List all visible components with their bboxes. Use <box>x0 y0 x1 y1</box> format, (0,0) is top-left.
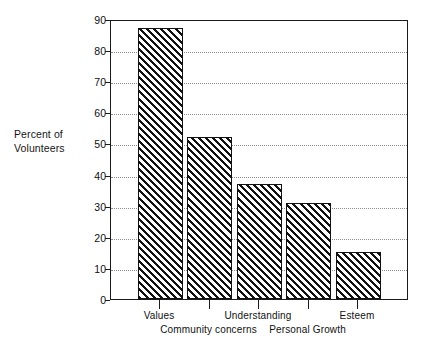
x-axis-tick-mark <box>159 300 160 309</box>
x-axis-tick-mark <box>258 300 259 309</box>
bar-chart-figure: Percent of Volunteers 010203040506070809… <box>0 0 428 357</box>
y-axis-tick-label: 0 <box>80 295 106 306</box>
y-axis-tick-label: 10 <box>80 264 106 275</box>
y-axis-tick-label: 70 <box>80 77 106 88</box>
bar <box>138 28 183 299</box>
x-axis-category-label: Understanding <box>225 310 292 321</box>
y-axis-tick-mark <box>105 144 110 145</box>
y-axis-tick-label: 40 <box>80 171 106 182</box>
y-axis-tick-mark <box>105 113 110 114</box>
plot-area <box>110 20 408 300</box>
x-axis-category-label: Personal Growth <box>269 324 346 335</box>
y-axis-tick-mark <box>105 300 110 301</box>
x-axis-category-label: Esteem <box>340 310 375 321</box>
x-axis-category-label: Values <box>144 310 175 321</box>
y-axis-tick-mark <box>105 20 110 21</box>
y-axis-tick-mark <box>105 176 110 177</box>
y-axis-tick-mark <box>105 82 110 83</box>
bar <box>187 137 232 299</box>
bar <box>237 184 282 299</box>
y-axis-tick-label: 30 <box>80 202 106 213</box>
x-axis-category-label: Community concerns <box>160 324 257 335</box>
y-axis-tick-mark <box>105 51 110 52</box>
y-axis-tick-label: 90 <box>80 15 106 26</box>
bar <box>286 203 331 299</box>
y-axis-tick-label: 20 <box>80 233 106 244</box>
y-axis-tick-label: 50 <box>80 139 106 150</box>
x-axis-tick-mark <box>308 300 309 309</box>
y-axis-tick-mark <box>105 207 110 208</box>
y-axis-tick-mark <box>105 269 110 270</box>
x-axis-tick-mark <box>209 300 210 309</box>
x-axis-tick-mark <box>357 300 358 309</box>
y-axis-tick-label: 60 <box>80 108 106 119</box>
bar <box>336 252 381 299</box>
y-axis-tick-label: 80 <box>80 46 106 57</box>
y-axis-tick-mark <box>105 238 110 239</box>
y-axis-tick-labels: 0102030405060708090 <box>76 20 106 300</box>
